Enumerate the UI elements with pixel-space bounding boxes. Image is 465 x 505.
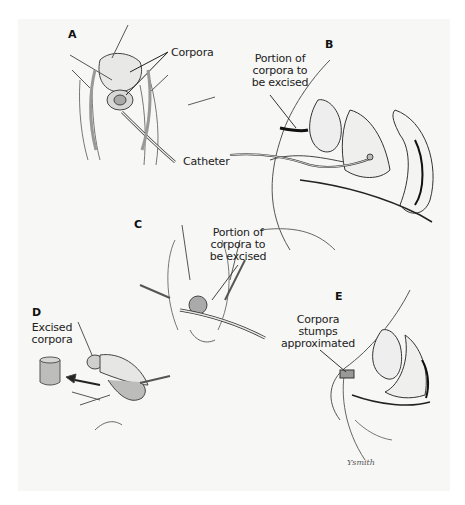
panel-d-label-line-2: corpora [22,334,82,346]
panel-c-letter: C [134,218,142,231]
panel-d-letter: D [32,306,41,319]
panel-b-letter: B [325,38,333,51]
panel-b-excision-label: Portion of corpora to be excised [240,53,320,89]
panel-d-excised-label: Excised corpora [22,322,82,346]
panel-c-label-line-3: be excised [198,251,278,263]
panel-e-label-line-3: approximated [278,338,358,350]
panel-b-label-line-3: be excised [240,77,320,89]
artist-signature: Ysmith [347,458,375,467]
catheter-label: Catheter [183,156,229,168]
panel-e-stumps-label: Corpora stumps approximated [278,314,358,350]
panel-a-letter: A [68,28,77,41]
panel-a-drawing [70,25,175,165]
panel-c-excision-label: Portion of corpora to be excised [198,227,278,263]
catheter-leader-line [188,97,215,105]
panel-a-corpora-label: Corpora [171,47,214,59]
panel-e-letter: E [335,290,343,303]
